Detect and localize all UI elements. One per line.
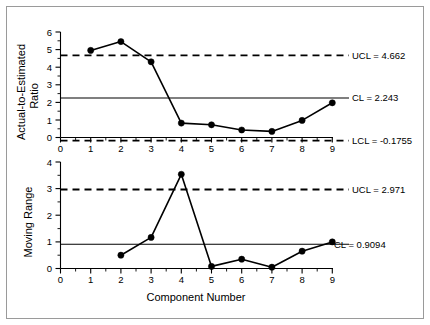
bottom-xtick-8: 8 — [299, 274, 304, 285]
bottom-xtick-1: 1 — [88, 274, 93, 285]
top-xtick-7: 7 — [269, 143, 274, 154]
top-ytick-6: 6 — [47, 27, 52, 38]
bottom-ytick-1: 1 — [47, 236, 52, 247]
bottom-data-point — [269, 264, 275, 270]
bottom-xtick-5: 5 — [209, 274, 214, 285]
top-lcl-label: LCL = -0.1755 — [352, 135, 412, 146]
top-data-point — [88, 47, 94, 53]
bottom-ytick-2: 2 — [47, 210, 52, 221]
bottom-y-ticks — [56, 162, 61, 269]
bottom-ytick-0: 0 — [47, 263, 52, 274]
bottom-data-point — [118, 252, 124, 258]
x-axis-title: Component Number — [146, 291, 245, 303]
individuals-chart: Actual-to-Estimated Ratio 0 — [15, 27, 412, 155]
top-ytick-4: 4 — [47, 62, 52, 73]
top-cl-label: CL = 2.243 — [352, 92, 398, 103]
top-ytick-1: 1 — [47, 115, 52, 126]
top-xtick-4: 4 — [179, 143, 184, 154]
top-y-axis-title-line2: Ratio — [28, 83, 40, 109]
top-ytick-0: 0 — [47, 132, 52, 143]
top-xtick-9: 9 — [330, 143, 335, 154]
top-data-point — [329, 100, 335, 106]
bottom-series-points — [118, 171, 336, 270]
bottom-xtick-0: 0 — [58, 274, 63, 285]
top-series-points — [88, 39, 336, 135]
moving-range-chart: Moving Range 0 1 2 3 4 — [22, 157, 405, 304]
bottom-x-ticks — [61, 269, 333, 274]
top-ytick-3: 3 — [47, 79, 52, 90]
top-xtick-6: 6 — [239, 143, 244, 154]
bottom-ucl-label: UCL = 2.971 — [352, 184, 405, 195]
bottom-xtick-7: 7 — [269, 274, 274, 285]
bottom-xtick-9: 9 — [330, 274, 335, 285]
top-data-point — [299, 117, 305, 123]
bottom-xtick-3: 3 — [148, 274, 153, 285]
bottom-xtick-6: 6 — [239, 274, 244, 285]
bottom-ytick-4: 4 — [47, 157, 52, 168]
bottom-data-point — [329, 239, 335, 245]
top-data-point — [148, 59, 154, 65]
bottom-data-point — [148, 234, 154, 240]
top-y-ticks — [56, 32, 61, 138]
control-chart-svg: Actual-to-Estimated Ratio 0 — [0, 0, 430, 325]
bottom-data-point — [178, 171, 184, 177]
top-xtick-8: 8 — [299, 143, 304, 154]
top-data-point — [269, 128, 275, 134]
bottom-data-point — [299, 248, 305, 254]
top-ytick-5: 5 — [47, 44, 52, 55]
top-data-point — [118, 39, 124, 45]
bottom-xtick-4: 4 — [179, 274, 184, 285]
top-xtick-5: 5 — [209, 143, 214, 154]
top-xtick-1: 1 — [88, 143, 93, 154]
bottom-data-point — [208, 263, 214, 269]
bottom-y-axis-title: Moving Range — [22, 187, 34, 258]
top-xtick-3: 3 — [148, 143, 153, 154]
top-ytick-2: 2 — [47, 97, 52, 108]
top-xtick-0: 0 — [58, 143, 63, 154]
control-chart-figure: Actual-to-Estimated Ratio 0 — [0, 0, 430, 325]
top-y-axis-title-line1: Actual-to-Estimated — [15, 44, 27, 140]
top-xtick-2: 2 — [118, 143, 123, 154]
top-data-point — [239, 127, 245, 133]
top-data-point — [208, 122, 214, 128]
top-data-point — [178, 120, 184, 126]
bottom-cl-label: CL = 0.9094 — [334, 239, 386, 250]
bottom-xtick-2: 2 — [118, 274, 123, 285]
bottom-ytick-3: 3 — [47, 183, 52, 194]
bottom-data-point — [239, 256, 245, 262]
top-ucl-label: UCL = 4.662 — [352, 50, 405, 61]
